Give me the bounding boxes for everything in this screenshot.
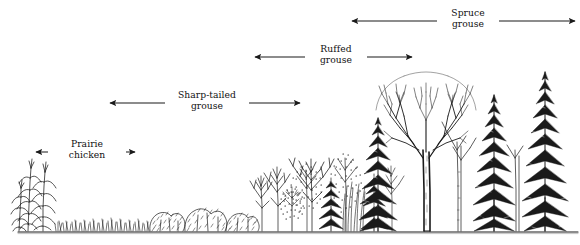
range-label-spruce-grouse: Spruce grouse xyxy=(437,8,499,29)
range-label-prairie-chicken: Prairie chicken xyxy=(48,139,126,160)
range-label-ruffed-grouse: Ruffed grouse xyxy=(305,44,367,65)
species-range-arrows xyxy=(0,0,580,245)
range-label-sharp-tailed-grouse: Sharp-tailed grouse xyxy=(165,90,249,111)
habitat-succession-figure: Prairie chicken Sharp-tailed grouse Ruff… xyxy=(0,0,580,245)
